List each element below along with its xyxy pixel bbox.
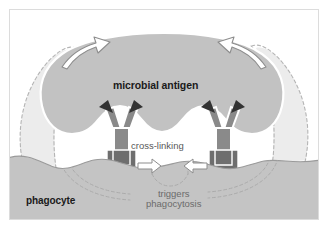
diagram-canvas: microbial antigen cross-linking phagocyt… bbox=[0, 0, 330, 230]
label-triggers-line2: phagocytosis bbox=[146, 199, 201, 209]
label-cross-linking: cross-linking bbox=[131, 141, 184, 151]
label-triggers-phagocytosis: triggers phagocytosis bbox=[146, 189, 201, 210]
label-phagocyte: phagocyte bbox=[26, 196, 75, 207]
label-microbial-antigen: microbial antigen bbox=[113, 80, 198, 91]
